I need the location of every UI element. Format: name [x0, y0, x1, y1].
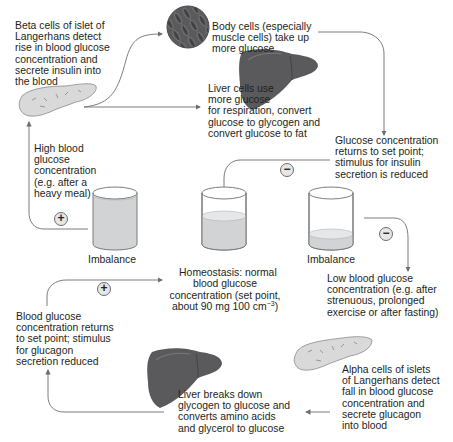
label-beta-cells: Beta cells of islet of Langerhans detect…	[15, 20, 110, 87]
label-homeostasis: Homeostasis: normal blood glucose concen…	[163, 256, 287, 312]
arrow-to-set-point-insulin	[318, 32, 384, 135]
beaker-low-imbalance	[309, 187, 353, 250]
pancreas-icon-upper	[19, 84, 96, 116]
label-high-glucose: High blood glucose concentration (e.g. a…	[34, 143, 96, 199]
arrow-to-set-point-glucagon	[48, 370, 164, 412]
label-alpha-cells: Alpha cells of islets of Langerhans dete…	[342, 364, 440, 431]
homeostasis-units: about 90 mg 100 cm	[172, 301, 267, 312]
homeostasis-close: )	[275, 301, 278, 312]
label-body-cells: Body cells (especially muscle cells) tak…	[212, 21, 311, 55]
label-imbalance-high: Imbalance	[88, 254, 136, 265]
label-low-glucose: Low blood glucose concentration (e.g. af…	[327, 273, 438, 318]
minus-sign-icon-low: −	[379, 227, 393, 241]
label-returns-glucagon: Blood glucose concentration returns to s…	[16, 311, 114, 367]
label-imbalance-low: Imbalance	[307, 254, 355, 265]
label-liver-cells-use: Liver cells use more glucose for respira…	[208, 83, 320, 139]
plus-sign-icon-high: +	[54, 212, 68, 226]
plus-sign-icon-glucagon: +	[97, 282, 111, 296]
homeostasis-exponent: −3	[267, 299, 275, 306]
muscle-cells-icon	[167, 6, 209, 48]
label-returns-insulin: Glucose concentration returns to set poi…	[335, 135, 438, 180]
arrow-to-homeostasis-from-insulin	[224, 160, 330, 193]
minus-sign-icon-insulin: −	[280, 163, 294, 177]
homeostasis-text: Homeostasis: normal blood glucose concen…	[170, 267, 281, 300]
beaker-homeostasis	[202, 187, 246, 250]
beaker-high-imbalance	[93, 187, 137, 250]
label-liver-breaks-down: Liver breaks down glycogen to glucose an…	[178, 389, 290, 434]
